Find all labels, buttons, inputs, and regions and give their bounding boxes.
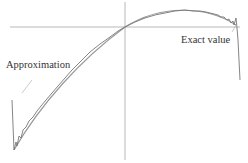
approximation-leader: [22, 80, 32, 93]
approximation-curve: [12, 10, 240, 150]
exact-value-label: Exact value: [181, 34, 230, 45]
approximation-label: Approximation: [6, 59, 70, 70]
chart-canvas: [0, 0, 248, 163]
